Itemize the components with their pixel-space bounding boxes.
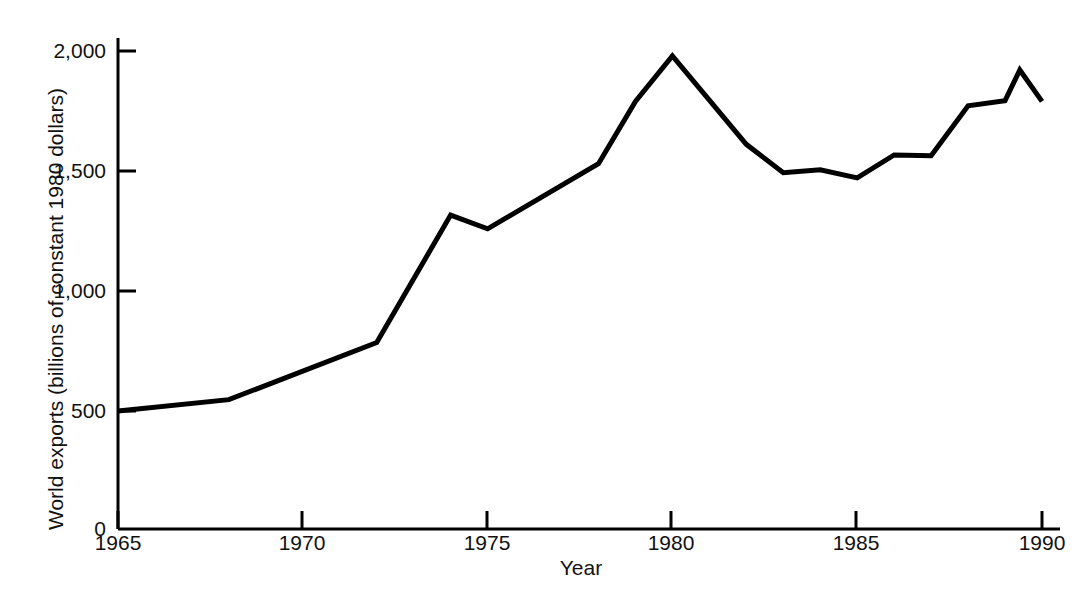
x-axis-ticks bbox=[118, 511, 1042, 529]
caption-ghost-text bbox=[148, 586, 948, 602]
y-axis-ticks bbox=[118, 51, 136, 411]
chart-figure: 2,000 1,500 1,000 500 0 1965 1970 1975 1… bbox=[0, 0, 1092, 605]
x-tick-label-1980: 1980 bbox=[621, 531, 721, 555]
exports-data-line bbox=[118, 56, 1042, 411]
line-chart-plot bbox=[0, 0, 1092, 605]
x-tick-label-1985: 1985 bbox=[806, 531, 906, 555]
y-axis-title: World exports (billions of constant 1980… bbox=[44, 88, 68, 530]
x-tick-label-1975: 1975 bbox=[437, 531, 537, 555]
x-axis-title: Year bbox=[0, 556, 1092, 580]
x-axis-title-text: Year bbox=[560, 556, 602, 579]
y-tick-label-2000: 2,000 bbox=[10, 39, 106, 63]
x-tick-label-1990: 1990 bbox=[992, 531, 1092, 555]
x-tick-label-1965: 1965 bbox=[68, 531, 168, 555]
x-tick-label-1970: 1970 bbox=[252, 531, 352, 555]
